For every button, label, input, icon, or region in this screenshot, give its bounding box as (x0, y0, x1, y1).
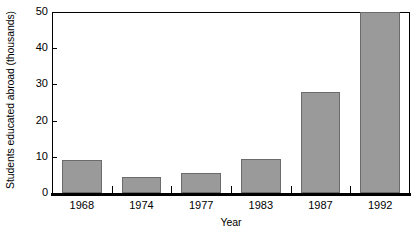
y-axis-tick-label: 40 (24, 42, 48, 53)
bar (62, 160, 101, 193)
x-axis-tick-mark (291, 186, 292, 194)
y-axis-tick-labels: 01020304050 (22, 0, 48, 237)
y-axis-title: Students educated abroad (thousands) (2, 2, 18, 198)
x-axis-tick-label: 1977 (171, 199, 231, 212)
x-axis-tick-mark (231, 186, 232, 194)
bar (122, 177, 161, 193)
bars-container (52, 12, 410, 193)
y-axis-tick-mark (52, 157, 57, 158)
bar (360, 12, 399, 193)
y-axis-tick-label: 20 (24, 115, 48, 126)
y-axis-tick-mark (52, 48, 57, 49)
bar (241, 159, 280, 193)
x-axis-tick-mark (171, 186, 172, 194)
y-axis-tick-label: 50 (24, 6, 48, 17)
y-axis-tick-mark (52, 121, 57, 122)
x-axis-tick-label: 1974 (112, 199, 172, 212)
x-axis-tick-mark (112, 186, 113, 194)
x-axis-tick-mark (350, 186, 351, 194)
x-axis-title: Year (52, 216, 410, 229)
y-axis-tick-label: 10 (24, 151, 48, 162)
x-axis-tick-label: 1987 (291, 199, 351, 212)
y-axis-tick-mark (52, 84, 57, 85)
x-axis-tick-label: 1968 (52, 199, 112, 212)
x-axis-tick-label: 1983 (231, 199, 291, 212)
bar-chart-figure: Students educated abroad (thousands) 010… (0, 0, 418, 237)
bar (181, 173, 220, 193)
x-axis-tick-label: 1992 (350, 199, 410, 212)
y-axis-tick-label: 30 (24, 78, 48, 89)
y-axis-tick-label: 0 (24, 187, 48, 198)
bar (301, 92, 340, 193)
